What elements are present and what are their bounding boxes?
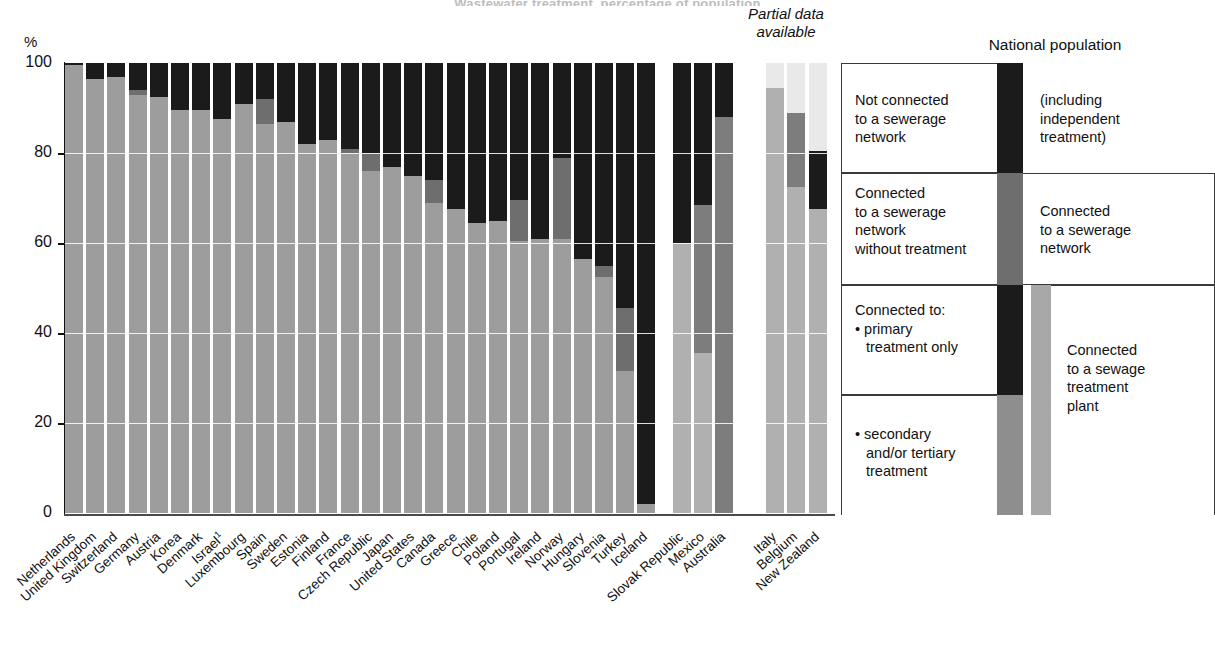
legend-label-secondary-l3: treatment <box>855 462 955 481</box>
bar-segment-notconnected <box>616 63 634 308</box>
legend-swatch-sewage-plant <box>1031 285 1051 515</box>
legend-label-connected-sewerage-l3: network <box>1040 239 1131 258</box>
legend-label-secondary: • secondary and/or tertiary treatment <box>855 425 955 481</box>
partial-data-note-line2: available <box>726 23 846 41</box>
gridline <box>65 243 835 244</box>
bar-israel <box>213 63 231 513</box>
bar-segment-secondary <box>277 122 295 514</box>
bar-segment-notconnected <box>574 63 592 191</box>
bar-segment-secondary <box>447 209 465 513</box>
bar-segment-notconnected <box>213 63 231 95</box>
bar-segment-primary <box>616 308 634 371</box>
y-axis-tick-label: 100 <box>6 53 52 71</box>
plot-area <box>65 63 835 513</box>
bar-segment-notconnected <box>319 63 337 140</box>
bar-segment-secondary <box>489 221 507 514</box>
bar-segment-primary <box>256 99 274 124</box>
bar-segment-secondary <box>766 88 784 513</box>
bar-segment-secondary <box>673 243 691 513</box>
bar-segment-notconnected <box>86 63 104 79</box>
bar-segment-secondary <box>809 209 827 513</box>
bar-segment-notconnected <box>235 63 253 104</box>
gridline <box>65 333 835 334</box>
bar-segment-secondary <box>171 110 189 513</box>
bar-segment-notreated <box>574 191 592 259</box>
bar-luxembourg <box>235 63 253 513</box>
bar-netherlands <box>65 63 83 513</box>
bar-segment-secondary <box>694 353 712 513</box>
bar-korea <box>171 63 189 513</box>
bar-segment-secondary <box>616 371 634 513</box>
legend-label-sewage-plant-l3: treatment <box>1067 378 1145 397</box>
bar-segment-notconnected <box>553 63 571 158</box>
bar-austria <box>150 63 168 513</box>
bar-segment-notconnected <box>715 63 733 117</box>
legend-label-primary: Connected to: • primary treatment only <box>855 301 958 357</box>
bar-segment-notconnected <box>404 63 422 176</box>
bar-australia <box>715 63 733 513</box>
legend-label-including-independent: (including independent treatment) <box>1040 91 1120 147</box>
legend-swatch-secondary <box>997 395 1023 515</box>
bar-segment-notconnected <box>595 63 613 216</box>
legend-label-sewage-plant-l1: Connected <box>1067 341 1145 360</box>
bar-canada <box>425 63 443 513</box>
bar-segment-secondary <box>574 259 592 513</box>
bar-segment-notconnected <box>277 63 295 122</box>
bar-segment-notconnected <box>489 63 507 221</box>
bar-segment-notreated <box>213 95 231 120</box>
bar-germany <box>129 63 147 513</box>
bar-segment-primary <box>425 180 443 203</box>
bar-spain <box>256 63 274 513</box>
y-axis-tick-label: 80 <box>6 143 52 161</box>
bar-estonia <box>298 63 316 513</box>
legend-label-no-treatment-l2: to a sewerage <box>855 203 966 222</box>
bar-segment-secondary <box>468 223 486 513</box>
bar-poland <box>489 63 507 513</box>
legend-label-sewage-plant-l4: plant <box>1067 397 1145 416</box>
bar-norway <box>553 63 571 513</box>
bar-slovenia <box>595 63 613 513</box>
y-axis-tick <box>58 153 65 155</box>
y-axis-unit: % <box>24 33 37 50</box>
chart-title: Wastewater treatment, percentage of popu… <box>0 0 1215 6</box>
y-axis-tick <box>58 423 65 425</box>
bar-segment-secondary <box>404 176 422 514</box>
bar-segment-primary <box>694 205 712 354</box>
bar-denmark <box>192 63 210 513</box>
bar-segment-secondary <box>256 124 274 513</box>
bar-segment-notconnected <box>256 63 274 99</box>
bar-turkey <box>616 63 634 513</box>
bar-segment-primary <box>787 113 805 187</box>
bar-segment-secondary <box>86 79 104 513</box>
y-axis-tick-label: 20 <box>6 413 52 431</box>
legend-label-no-treatment-l1: Connected <box>855 184 966 203</box>
legend-label-not-connected-l1: Not connected <box>855 91 949 110</box>
gridline <box>65 423 835 424</box>
legend-swatch-primary <box>997 285 1023 395</box>
bar-segment-notreated <box>531 180 549 239</box>
bar-japan <box>383 63 401 513</box>
y-axis-tick <box>58 243 65 245</box>
legend-label-connected-sewerage-l2: to a sewerage <box>1040 221 1131 240</box>
legend-label-connected-sewerage: Connected to a sewerage network <box>1040 202 1131 258</box>
bar-segment-secondary <box>383 167 401 514</box>
bar-united-states <box>404 63 422 513</box>
bar-segment-unknown <box>809 63 827 151</box>
legend-label-including-l1: (including <box>1040 91 1120 110</box>
bar-segment-notconnected <box>468 63 486 137</box>
bar-segment-primary <box>715 117 733 513</box>
bar-segment-notconnected <box>637 63 655 257</box>
bar-chile <box>468 63 486 513</box>
y-axis-tick <box>58 333 65 335</box>
bar-segment-notconnected <box>531 63 549 180</box>
bar-segment-secondary <box>510 241 528 513</box>
bar-segment-primary <box>553 158 571 239</box>
legend-swatch-no-treatment <box>997 173 1023 285</box>
bar-czech-republic <box>362 63 380 513</box>
national-population-heading: National population <box>955 36 1155 54</box>
bar-iceland <box>637 63 655 513</box>
bar-segment-secondary <box>595 277 613 513</box>
bar-segment-secondary <box>150 97 168 513</box>
bar-segment-secondary <box>637 504 655 513</box>
bar-segment-notconnected <box>362 63 380 153</box>
